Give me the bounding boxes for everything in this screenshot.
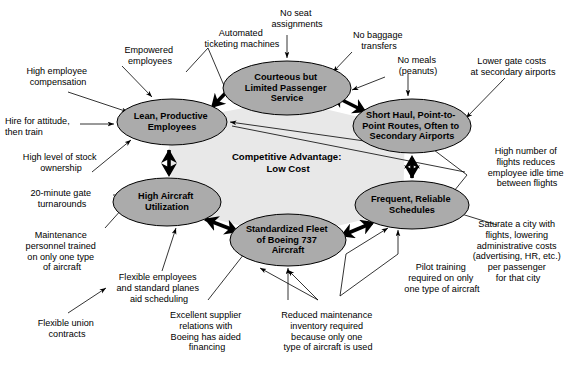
driver-lower-gate-costs: Lower gate costs at secondary airports — [471, 56, 556, 77]
driver-excellent-supplier-relations: Excellent supplier relations with Boeing… — [170, 310, 244, 352]
link-frequent-to-fleet — [341, 223, 372, 236]
driver-hire-for-attitude: Hire for attitude, then train — [5, 116, 72, 137]
driver-maintenance-personnel-trained: Maintenance personnel trained on only on… — [26, 230, 99, 272]
node-label-high-aircraft-utilization: High Aircraft Utilization — [138, 191, 196, 212]
driver-no-baggage-transfers: No baggage transfers — [353, 30, 405, 51]
driver-high-employee-compensation: High employee compensation — [26, 66, 89, 87]
driver-empowered-employees: Empowered employees — [124, 45, 175, 66]
driver-high-stock-ownership: High level of stock ownership — [23, 152, 99, 173]
driver-pilot-training-one-type: Pilot training required on only one type… — [404, 262, 480, 294]
driver-twenty-minute-turnarounds: 20-minute gate turnarounds — [30, 188, 93, 209]
driver-high-number-of-flights: High number of flights reduces employee … — [488, 146, 566, 188]
driver-no-seat-assignments: No seat assignments — [271, 8, 323, 29]
driver-flexible-employees-scheduling: Flexible employees and standard planes a… — [117, 272, 202, 304]
driver-reduced-maintenance-inventory: Reduced maintenance inventory required b… — [281, 310, 375, 352]
activity-system-diagram: Courteous but Limited Passenger Service … — [0, 0, 575, 368]
driver-automated-ticketing: Automated ticketing machines — [205, 28, 280, 49]
driver-flexible-union-contracts: Flexible union contracts — [38, 318, 97, 339]
driver-no-meals-peanuts: No meals (peanuts) — [398, 55, 439, 76]
node-label-short-haul-routes: Short Haul, Point-to- Point Routes, Ofte… — [362, 110, 462, 141]
driver-saturate-a-city: Saturate a city with flights, lowering a… — [473, 219, 563, 283]
diagram-canvas: Courteous but Limited Passenger Service … — [0, 0, 575, 368]
